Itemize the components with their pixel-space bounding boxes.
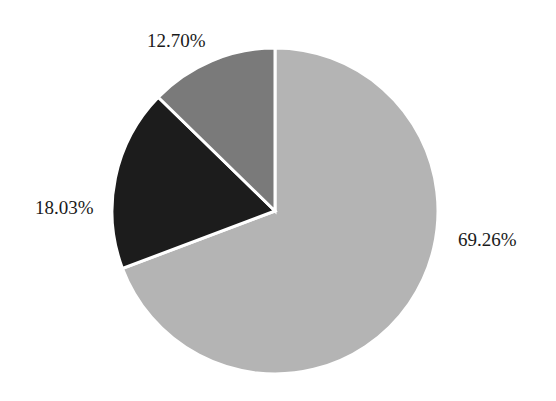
pie-chart: 69.26% 18.03% 12.70% (0, 0, 556, 401)
label-18-03: 18.03% (35, 197, 94, 218)
pie-slices (112, 48, 438, 374)
label-69-26: 69.26% (458, 229, 517, 250)
pie-chart-canvas: 69.26% 18.03% 12.70% (0, 0, 556, 401)
label-12-70: 12.70% (147, 30, 206, 51)
